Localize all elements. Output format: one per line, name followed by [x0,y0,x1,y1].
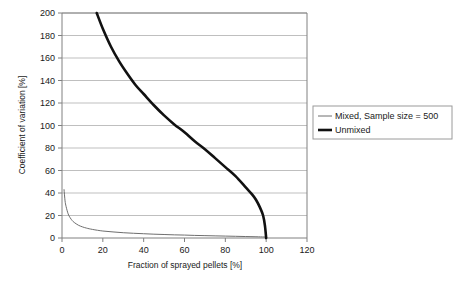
y-tick-label: 0 [50,233,55,243]
y-tick-label: 200 [40,8,55,18]
legend-label: Mixed, Sample size = 500 [335,111,438,121]
x-axis-tick-labels: 020406080100120 [59,245,314,255]
y-tick-label: 40 [45,188,55,198]
y-tick-label: 160 [40,53,55,63]
y-axis-ticks [58,13,62,238]
x-tick-label: 40 [139,245,149,255]
x-tick-label: 100 [259,245,274,255]
x-axis-title: Fraction of sprayed pellets [%] [128,260,242,270]
plot-gridlines [62,13,307,216]
x-axis-ticks [62,238,307,242]
y-tick-label: 140 [40,76,55,86]
x-tick-label: 120 [299,245,314,255]
y-tick-label: 100 [40,121,55,131]
y-axis-title: Coefficient of variation [%] [17,76,27,175]
y-tick-label: 20 [45,211,55,221]
y-tick-label: 120 [40,98,55,108]
y-axis-tick-labels: 020406080100120140160180200 [40,8,55,243]
chart-legend: Mixed, Sample size = 500Unmixed [313,106,452,139]
y-tick-label: 60 [45,166,55,176]
x-tick-label: 0 [59,245,64,255]
chart-container: 020406080100120140160180200 020406080100… [0,0,462,284]
series-line-mixed [64,190,266,237]
coefficient-of-variation-line-chart: 020406080100120140160180200 020406080100… [0,0,462,284]
x-tick-label: 80 [220,245,230,255]
x-tick-label: 60 [179,245,189,255]
y-tick-label: 80 [45,143,55,153]
x-tick-label: 20 [98,245,108,255]
y-tick-label: 180 [40,31,55,41]
legend-label: Unmixed [335,125,371,135]
